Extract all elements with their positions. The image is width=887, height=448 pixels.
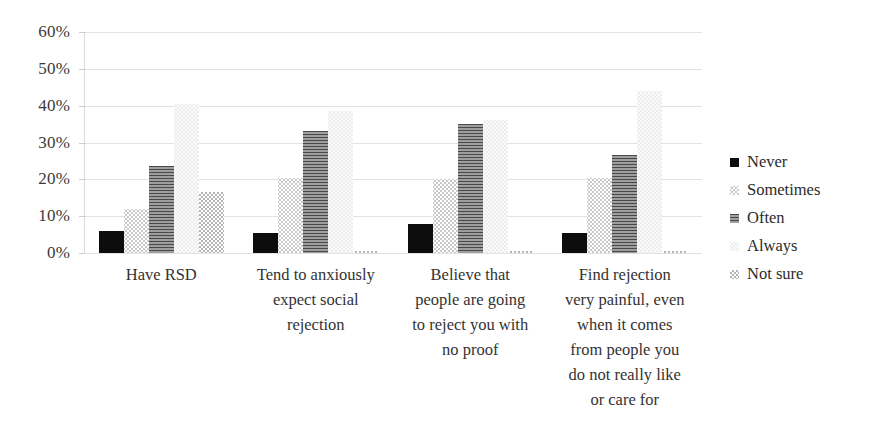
category-label-line: Tend to anxiously — [236, 262, 396, 287]
bar — [124, 209, 149, 253]
bar — [408, 224, 433, 253]
bar — [508, 251, 533, 253]
plot-area — [84, 32, 702, 253]
legend-label: Often — [747, 208, 785, 228]
category-label-line: rejection — [236, 312, 396, 337]
legend-label: Sometimes — [747, 180, 820, 200]
y-axis-tick-mark — [79, 143, 85, 144]
bar — [483, 120, 508, 253]
category-label: Believe thatpeople are goingto reject yo… — [390, 262, 550, 362]
legend-item[interactable]: Always — [730, 232, 820, 260]
legend-item[interactable]: Never — [730, 148, 820, 176]
legend-label: Never — [747, 152, 787, 172]
legend-item[interactable]: Sometimes — [730, 176, 820, 204]
legend-swatch-icon — [730, 158, 739, 167]
bar — [99, 231, 124, 253]
y-axis-tick-label: 30% — [0, 133, 70, 153]
bar — [353, 251, 378, 253]
category-label-line: when it comes — [545, 312, 705, 337]
bar-group — [253, 32, 378, 253]
legend-swatch-icon — [730, 186, 739, 195]
bar — [199, 192, 224, 253]
category-label-line: no proof — [390, 337, 550, 362]
bar — [458, 124, 483, 253]
bar — [149, 166, 174, 253]
bar — [303, 131, 328, 253]
grouped-bar-chart: 60%50%40%30%20%10%0% Have RSDTend to anx… — [0, 0, 887, 448]
y-axis-tick-mark — [79, 253, 85, 254]
bar — [662, 251, 687, 253]
bar-group — [562, 32, 687, 253]
y-axis-tick-mark — [79, 32, 85, 33]
gridline — [84, 253, 702, 254]
category-label-line: to reject you with — [390, 312, 550, 337]
bar-group — [408, 32, 533, 253]
y-axis-tick-mark — [79, 179, 85, 180]
bar — [612, 155, 637, 253]
bar — [328, 111, 353, 253]
category-label-line: or care for — [545, 387, 705, 412]
y-axis-tick-label: 10% — [0, 206, 70, 226]
legend-swatch-icon — [730, 242, 739, 251]
y-axis-tick-label: 50% — [0, 59, 70, 79]
category-label-line: very painful, even — [545, 287, 705, 312]
y-axis-tick-mark — [79, 216, 85, 217]
category-label-line: Find rejection — [545, 262, 705, 287]
legend-label: Not sure — [747, 264, 803, 284]
bar — [587, 178, 612, 254]
category-label: Tend to anxiouslyexpect socialrejection — [236, 262, 396, 337]
bar-group — [99, 32, 224, 253]
category-label: Have RSD — [81, 262, 241, 287]
category-label: Find rejectionvery painful, evenwhen it … — [545, 262, 705, 412]
bar — [253, 233, 278, 253]
category-label-line: from people you — [545, 337, 705, 362]
y-axis-tick-label: 60% — [0, 22, 70, 42]
category-label-line: Believe that — [390, 262, 550, 287]
bar — [637, 91, 662, 253]
bar — [562, 233, 587, 253]
bar — [174, 104, 199, 253]
bar — [278, 178, 303, 254]
y-axis-tick-label: 40% — [0, 96, 70, 116]
chart-legend: NeverSometimesOftenAlwaysNot sure — [730, 148, 820, 288]
y-axis-tick-label: 0% — [0, 243, 70, 263]
y-axis-tick-mark — [79, 106, 85, 107]
y-axis-tick-mark — [79, 69, 85, 70]
legend-swatch-icon — [730, 270, 739, 279]
category-label-line: expect social — [236, 287, 396, 312]
legend-swatch-icon — [730, 214, 739, 223]
category-label-line: do not really like — [545, 362, 705, 387]
legend-item[interactable]: Not sure — [730, 260, 820, 288]
bar — [433, 179, 458, 253]
legend-item[interactable]: Often — [730, 204, 820, 232]
y-axis-tick-label: 20% — [0, 169, 70, 189]
legend-label: Always — [747, 236, 797, 256]
category-label-line: Have RSD — [81, 262, 241, 287]
category-label-line: people are going — [390, 287, 550, 312]
